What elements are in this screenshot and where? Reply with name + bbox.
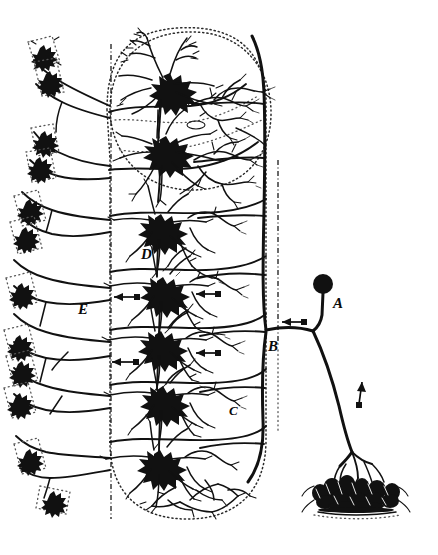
dorsal-root-fibre [248, 36, 352, 482]
label-D: D [140, 246, 152, 262]
arrow-left-2 [114, 293, 140, 301]
label-B: B [267, 338, 278, 354]
label-C: C [229, 403, 238, 418]
neuron-7 [100, 415, 212, 513]
ending-12 [36, 486, 70, 518]
figure-canvas: A B C D E [0, 0, 438, 555]
arrow-left-3 [282, 318, 307, 326]
label-E: E [77, 301, 88, 317]
ending-5 [14, 190, 46, 226]
ganglion-cell-a [313, 274, 333, 294]
arrow-up-6 [356, 382, 366, 408]
sensory-terminal [302, 452, 410, 519]
label-A: A [332, 295, 343, 311]
ending-3 [31, 124, 59, 158]
ending-1 [28, 36, 61, 72]
arrow-left-1 [196, 290, 221, 298]
arrow-left-4 [196, 349, 221, 357]
figure-labels: A B C D E [77, 246, 343, 418]
ending-7 [6, 272, 38, 310]
neuroanatomy-drawing: A B C D E [0, 0, 438, 555]
motor-axons [14, 60, 110, 498]
ending-11 [14, 438, 46, 476]
arrow-left-5 [112, 358, 139, 366]
